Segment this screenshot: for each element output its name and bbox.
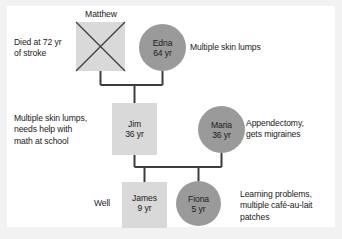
james-annotation-text: Well — [94, 198, 122, 209]
fiona-annotation-line3: patches — [240, 212, 340, 223]
matthew-annotation: Died at 72 yr of stroke — [14, 37, 78, 60]
maria-node[interactable] — [198, 106, 245, 153]
matthew-node[interactable] — [76, 22, 125, 71]
matthew-top-name-text: Matthew — [85, 9, 117, 19]
fiona-annotation: Learning problems, multiple café-au-lait… — [240, 189, 340, 223]
james-annotation: Well — [94, 198, 122, 209]
jim-node[interactable] — [112, 103, 157, 155]
edna-annotation-text: Multiple skin lumps — [190, 42, 310, 53]
matthew-annotation-line1: Died at 72 yr — [14, 37, 78, 48]
edna-node[interactable] — [139, 24, 186, 71]
matthew-annotation-line2: of stroke — [14, 48, 78, 59]
fiona-annotation-line1: Learning problems, — [240, 189, 340, 200]
jim-annotation-line2: needs help with — [14, 124, 112, 135]
maria-annotation-line2: gets migraines — [246, 129, 338, 140]
edna-annotation: Multiple skin lumps — [190, 42, 310, 53]
maria-annotation: Appendectomy, gets migraines — [246, 118, 338, 141]
pedigree-figure: Matthew Died at 72 yr of stroke Edna 64 … — [0, 0, 342, 239]
fiona-node[interactable] — [176, 181, 221, 226]
jim-annotation-line1: Multiple skin lumps, — [14, 113, 112, 124]
james-node[interactable] — [122, 182, 167, 228]
matthew-top-name: Matthew — [70, 9, 132, 19]
jim-annotation: Multiple skin lumps, needs help with mat… — [14, 113, 112, 147]
jim-annotation-line3: math at school — [14, 136, 112, 147]
maria-annotation-line1: Appendectomy, — [246, 118, 338, 129]
fiona-annotation-line2: multiple café-au-lait — [240, 200, 340, 211]
